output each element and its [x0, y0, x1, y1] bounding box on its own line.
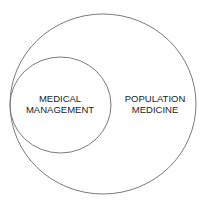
venn-diagram: MEDICAL MANAGEMENT POPULATION MEDICINE [0, 0, 209, 204]
medical-management-label-line2: MANAGEMENT [26, 104, 94, 115]
population-medicine-label-line1: POPULATION [125, 93, 186, 104]
population-medicine-label-line2: MEDICINE [132, 104, 178, 115]
medical-management-label-line1: MEDICAL [39, 93, 81, 104]
